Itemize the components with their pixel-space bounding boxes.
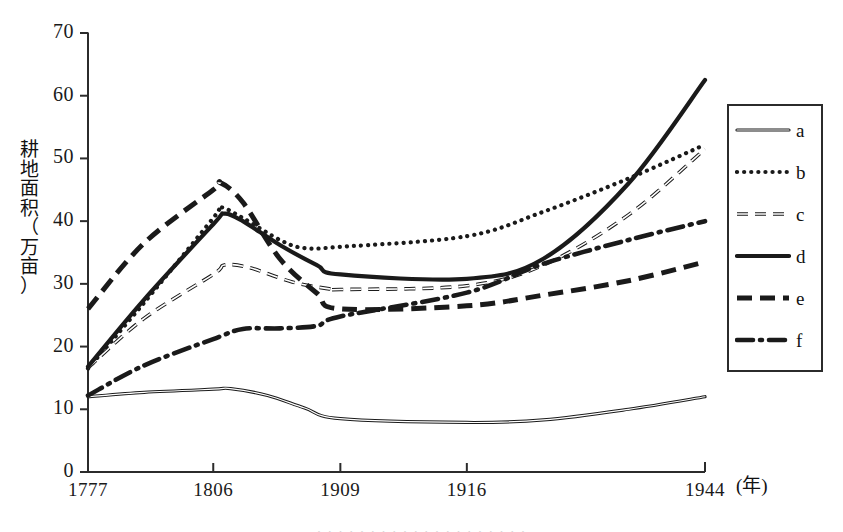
legend-line-swatch-e [735, 291, 791, 305]
y-tick-label: 40 [34, 208, 74, 231]
chart-figure: 耕地面积（万亩） 706050403020100 177718061909191… [0, 0, 843, 532]
legend-label-c: c [796, 205, 804, 224]
legend-item-b[interactable]: b [729, 162, 825, 182]
y-tick-label: 50 [34, 145, 74, 168]
x-tick-label: 1944 [665, 479, 745, 501]
legend-item-c[interactable]: c [729, 204, 825, 224]
y-tick-label: 70 [34, 20, 74, 43]
legend-label-d: d [796, 247, 806, 266]
line-chart-plot [0, 0, 843, 532]
y-axis-title-char: 万 [14, 238, 44, 258]
legend-label-f: f [796, 331, 802, 350]
y-tick-label: 10 [34, 396, 74, 419]
chart-series-a [88, 388, 705, 422]
legend-line-swatch-d [735, 249, 791, 263]
chart-series-d [88, 80, 705, 367]
legend-label-a: a [796, 121, 804, 140]
legend-label-e: e [796, 289, 804, 308]
legend-item-d[interactable]: d [729, 246, 825, 266]
y-tick-label: 60 [34, 83, 74, 106]
legend-line-swatch-f [735, 333, 791, 347]
y-tick-label: 30 [34, 271, 74, 294]
legend-item-e[interactable]: e [729, 288, 825, 308]
x-tick-label: 1806 [173, 479, 253, 501]
legend-item-a[interactable]: a [729, 120, 825, 140]
chart-axes [80, 33, 705, 472]
x-axis-unit-label: (年) [736, 470, 768, 497]
legend-line-swatch-c [735, 207, 791, 221]
legend-line-swatch-b [735, 165, 791, 179]
legend-item-f[interactable]: f [729, 330, 825, 350]
chart-series-layer [88, 80, 705, 422]
chart-legend: abcdef [727, 104, 823, 372]
x-tick-label: 1909 [300, 479, 380, 501]
x-tick-label: 1777 [48, 479, 128, 501]
x-tick-label: 1916 [427, 479, 507, 501]
page-caption-remnant: · · · · · · · · · · · · · · · · · · · · [0, 524, 843, 532]
y-tick-label: 20 [34, 334, 74, 357]
chart-series-f [88, 221, 705, 395]
legend-line-swatch-a [735, 123, 791, 137]
legend-label-b: b [796, 163, 806, 182]
y-axis-title-char: 面 [14, 179, 44, 199]
